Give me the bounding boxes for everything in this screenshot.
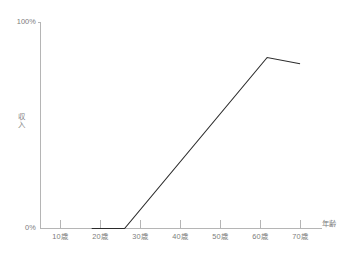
y-axis-max-label: 100% xyxy=(0,18,36,25)
y-axis-title: 収入 xyxy=(13,112,25,128)
x-axis-title: 年齢 xyxy=(322,220,336,227)
chart-plot-area xyxy=(0,0,347,260)
x-axis-tick-label-20: 20歳 xyxy=(85,233,115,240)
income-vs-age-chart: 100% 0% 収入 10歳 20歳 30歳 40歳 50歳 60歳 70歳 年… xyxy=(0,0,347,260)
x-axis-tick-label-70: 70歳 xyxy=(285,233,315,240)
x-axis-tick-label-10: 10歳 xyxy=(45,233,75,240)
x-axis-tick-label-50: 50歳 xyxy=(205,233,235,240)
x-axis-tick-label-40: 40歳 xyxy=(165,233,195,240)
x-axis-ticks xyxy=(61,220,301,229)
y-axis-min-label: 0% xyxy=(0,224,36,231)
x-axis-tick-label-30: 30歳 xyxy=(125,233,155,240)
income-line-series xyxy=(92,58,300,229)
x-axis-tick-label-60: 60歳 xyxy=(245,233,275,240)
